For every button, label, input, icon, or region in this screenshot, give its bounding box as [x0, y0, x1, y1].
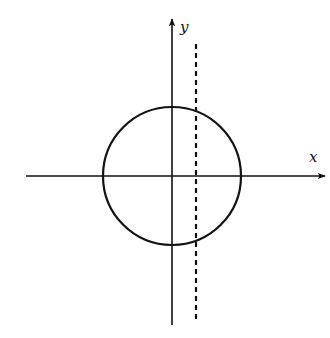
y-axis-label: y — [179, 18, 189, 36]
x-axis-label: x — [309, 148, 318, 166]
coordinate-diagram: y x — [0, 0, 330, 338]
